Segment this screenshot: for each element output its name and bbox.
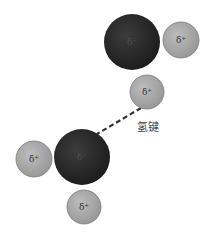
water-molecule-bottom: δ⁻ δ⁺ δ⁺ [16,129,110,224]
hydrogen-charge-label: δ⁺ [29,154,39,164]
water-hydrogen-bond-diagram: δ⁻ δ⁺ δ⁺ δ⁻ δ⁺ δ⁺ 氢键 [0,0,209,234]
oxygen-charge-label: δ⁻ [77,152,87,162]
hydrogen-charge-label: δ⁺ [79,202,89,212]
hydrogen-charge-label: δ⁺ [142,87,152,97]
hydrogen-charge-label: δ⁺ [176,35,186,45]
water-molecule-top: δ⁻ δ⁺ δ⁺ [104,14,199,109]
hydrogen-bond-label: 氢键 [137,120,159,134]
hydrogen-bond-line [97,108,141,134]
oxygen-charge-label: δ⁻ [127,37,137,47]
